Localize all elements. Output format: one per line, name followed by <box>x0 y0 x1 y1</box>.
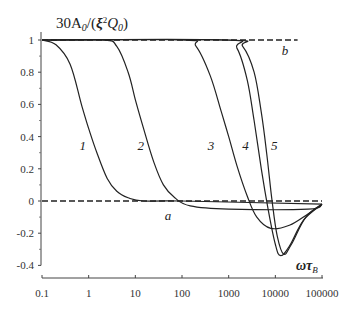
line-chart: 10.80.60.40.20-0.2-0.4 0.111010010001000… <box>0 0 350 310</box>
y-tick-label: 0.6 <box>20 98 34 110</box>
x-tick-label: 1 <box>86 287 92 299</box>
x-axis: 0.1110100100010000100000 <box>35 275 339 299</box>
y-tick-label: 0.8 <box>20 66 34 78</box>
series-1-line <box>42 40 322 204</box>
curve-label-5: 5 <box>271 138 278 153</box>
y-tick-label: 0.4 <box>20 131 34 143</box>
y-tick-label: -0.4 <box>17 259 35 271</box>
x-tick-label: 10000 <box>262 287 290 299</box>
curve-label-b: b <box>282 43 289 58</box>
y-tick-label: 1 <box>29 34 35 46</box>
x-axis-title: ωτB <box>296 258 318 275</box>
curve-label-a: a <box>165 208 172 223</box>
curve-label-3: 3 <box>207 138 215 153</box>
y-axis-title: 30A0/(ξ2Q0) <box>56 15 128 33</box>
y-tick-label: 0 <box>29 195 35 207</box>
x-tick-label: 0.1 <box>35 287 49 299</box>
curve-label-1: 1 <box>80 138 87 153</box>
x-tick-label: 1000 <box>218 287 241 299</box>
y-axis: 10.80.60.40.20-0.2-0.4 <box>17 32 41 271</box>
y-tick-label: 0.2 <box>20 163 34 175</box>
curve-labels: 12345ab <box>80 43 289 224</box>
x-tick-label: 100000 <box>306 287 340 299</box>
y-tick-label: -0.2 <box>17 227 34 239</box>
x-tick-label: 100 <box>174 287 191 299</box>
curve-label-2: 2 <box>137 138 144 153</box>
x-tick-label: 10 <box>130 287 142 299</box>
curve-label-4: 4 <box>242 138 249 153</box>
series-2-line <box>42 39 322 209</box>
